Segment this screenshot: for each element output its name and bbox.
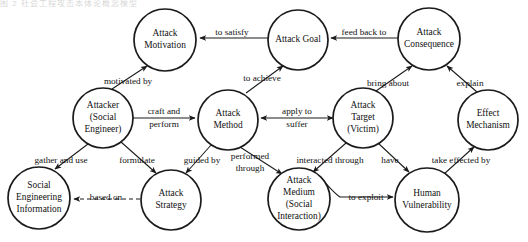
node-effect-mechanism[interactable]: Effect Mechanism bbox=[458, 90, 518, 150]
node-social-engineering-information[interactable]: Social Engineering Information bbox=[8, 167, 70, 229]
node-label-attack-strategy: Attack bbox=[159, 188, 184, 198]
node-human-vulnerability[interactable]: Human Vulnerability bbox=[395, 168, 459, 232]
svg-text:Mechanism: Mechanism bbox=[466, 120, 510, 130]
svg-text:Method: Method bbox=[213, 120, 242, 130]
node-label-attacker: Attacker bbox=[87, 100, 120, 110]
edge-label-explain: explain bbox=[456, 78, 483, 88]
edge-label-to-exploit: to exploit bbox=[349, 192, 384, 202]
node-attacker[interactable]: Attacker (Social Engineer) bbox=[73, 88, 133, 148]
node-attack-medium[interactable]: Attack Medium (Social Interaction) bbox=[268, 168, 330, 230]
svg-text:Medium: Medium bbox=[283, 187, 315, 197]
edge-label-gather-and-use: gather and use bbox=[34, 155, 87, 165]
edge-label-formulate: formulate bbox=[119, 155, 155, 165]
svg-text:Engineering: Engineering bbox=[16, 192, 62, 202]
node-label-attack-method: Attack bbox=[216, 108, 241, 118]
svg-text:Strategy: Strategy bbox=[155, 200, 187, 210]
edge-label-based-on: based on bbox=[90, 192, 123, 202]
edge-label-have: have bbox=[381, 155, 398, 165]
svg-text:perform: perform bbox=[149, 119, 179, 129]
edge-label-bring-about: bring about bbox=[367, 78, 410, 88]
node-label-attack-target: Attack bbox=[351, 100, 376, 110]
edge-label-to-achieve: to achieve bbox=[243, 73, 281, 83]
node-label-social-engineering-information: Social bbox=[27, 180, 51, 190]
node-label-effect-mechanism: Effect bbox=[477, 108, 500, 118]
node-attack-motivation[interactable]: Attack Motivation bbox=[134, 9, 196, 71]
svg-text:suffer: suffer bbox=[286, 119, 307, 129]
edge-label-performed-through: performed bbox=[231, 151, 270, 161]
svg-text:Engineer): Engineer) bbox=[85, 124, 122, 135]
node-attack-strategy[interactable]: Attack Strategy bbox=[141, 170, 201, 230]
edge-label-take-effected-by: take effected by bbox=[432, 155, 491, 165]
node-attack-target[interactable]: Attack Target (Victim) bbox=[333, 88, 393, 148]
edge-label-interacted-through: interacted through bbox=[296, 155, 364, 165]
node-attack-goal[interactable]: Attack Goal bbox=[268, 10, 328, 70]
edge-label-apply-to-suffer: apply to bbox=[282, 106, 312, 116]
edge-label-motivated-by: motivated by bbox=[104, 76, 153, 86]
svg-text:Target: Target bbox=[351, 112, 375, 122]
edge-label-to-satisfy: to satisfy bbox=[215, 27, 249, 37]
node-label-attack-medium: Attack bbox=[287, 175, 312, 185]
node-label-attack-goal: Attack Goal bbox=[275, 34, 321, 44]
node-label-human-vulnerability: Human bbox=[413, 188, 441, 198]
diagram-canvas: Attack Motivation Attack Goal Attack Con… bbox=[0, 0, 528, 242]
svg-text:Consequence: Consequence bbox=[404, 39, 454, 49]
edge-label-guided-by: guided by bbox=[184, 155, 221, 165]
edge-label-craft-and-perform: craft and bbox=[148, 106, 181, 116]
svg-text:through: through bbox=[236, 163, 265, 173]
edge-label-feed-back-to: feed back to bbox=[342, 27, 387, 37]
node-label-attack-motivation: Attack bbox=[153, 28, 178, 38]
svg-text:(Victim): (Victim) bbox=[347, 124, 379, 135]
svg-text:(Social: (Social bbox=[286, 199, 313, 210]
node-attack-method[interactable]: Attack Method bbox=[198, 90, 258, 150]
node-attack-consequence[interactable]: Attack Consequence bbox=[398, 8, 460, 70]
svg-text:(Social: (Social bbox=[90, 112, 117, 123]
node-label-attack-consequence: Attack bbox=[417, 27, 442, 37]
svg-text:Motivation: Motivation bbox=[144, 40, 186, 50]
svg-text:Information: Information bbox=[17, 204, 62, 214]
nodes-layer: Attack Motivation Attack Goal Attack Con… bbox=[8, 8, 518, 232]
concept-model-diagram: 图 2 社会工程攻击本体论概念模型 bbox=[0, 0, 528, 242]
svg-text:Vulnerability: Vulnerability bbox=[402, 200, 452, 210]
svg-text:Interaction): Interaction) bbox=[277, 211, 321, 222]
